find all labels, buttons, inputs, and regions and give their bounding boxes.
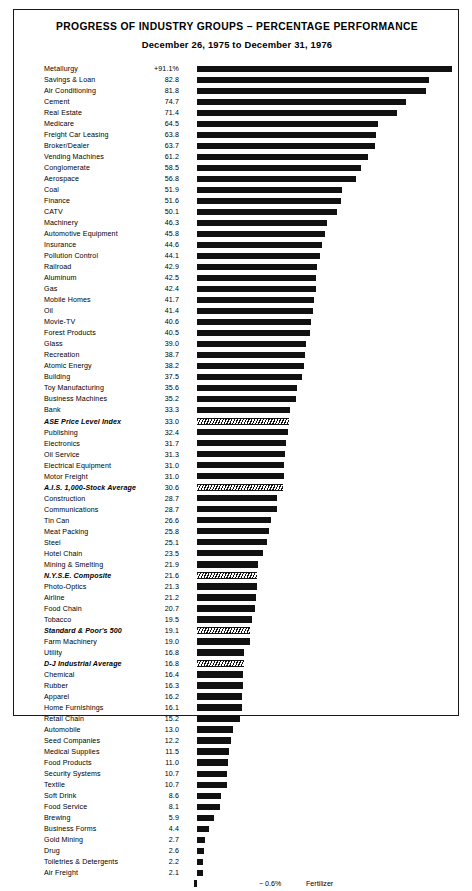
chart-row: Aerospace56.8 [14, 174, 460, 185]
row-value-label: 19.0 [124, 637, 179, 648]
row-value-label: 4.4 [124, 824, 179, 835]
row-value-label: 33.0 [124, 417, 179, 428]
row-category-label: A.I.S. 1,000-Stock Average [44, 483, 136, 494]
bar-track [197, 804, 452, 812]
row-value-label: 31.0 [124, 461, 179, 472]
row-category-label: CATV [44, 207, 63, 218]
chart-row: Insurance44.6 [14, 240, 460, 251]
row-value-label: 11.0 [124, 758, 179, 769]
chart-row: Utility16.8 [14, 648, 460, 659]
row-value-label: 21.9 [124, 560, 179, 571]
bar-track [197, 848, 452, 856]
row-category-label: Chemical [44, 670, 75, 681]
row-category-label: Rubber [44, 681, 68, 692]
bar-track [197, 660, 452, 668]
chart-row: Apparel16.2 [14, 692, 460, 703]
chart-row: Metallurgy+91.1% [14, 64, 460, 75]
row-value-label: 28.7 [124, 505, 179, 516]
category-bar [197, 583, 257, 589]
chart-row: Air Freight2.1 [14, 868, 460, 879]
chart-row: Railroad42.9 [14, 262, 460, 273]
row-value-label: 16.8 [124, 659, 179, 670]
category-bar [197, 385, 297, 391]
row-value-label: 2.6 [124, 846, 179, 857]
category-bar [197, 330, 310, 336]
bar-track [197, 771, 452, 779]
bar-track [197, 495, 452, 503]
row-category-label: Cement [44, 97, 70, 108]
bar-track [197, 286, 452, 294]
index-bar [197, 418, 289, 425]
row-category-label: Brewing [44, 813, 70, 824]
row-value-label: 10.7 [124, 780, 179, 791]
category-bar [197, 165, 361, 171]
category-bar [197, 132, 376, 138]
row-value-label: 16.3 [124, 681, 179, 692]
category-bar [197, 693, 242, 699]
row-category-label: Vending Machines [44, 152, 104, 163]
chart-row: Automotive Equipment45.8 [14, 229, 460, 240]
row-value-label: 46.3 [124, 218, 179, 229]
row-category-label: Retail Chain [44, 714, 84, 725]
row-value-label: 26.6 [124, 516, 179, 527]
row-value-label: 41.4 [124, 306, 179, 317]
category-bar [197, 804, 220, 810]
row-value-label: 35.6 [124, 383, 179, 394]
row-category-label: Broker/Dealer [44, 141, 89, 152]
category-bar [197, 264, 317, 270]
category-bar [197, 726, 233, 732]
row-category-label: Electrical Equipment [44, 461, 111, 472]
category-bar [197, 374, 302, 380]
bar-track [197, 506, 452, 514]
chart-row: Cement74.7 [14, 97, 460, 108]
chart-row: Electrical Equipment31.0 [14, 461, 460, 472]
row-value-label: 81.8 [124, 86, 179, 97]
row-value-label: 20.7 [124, 604, 179, 615]
chart-row: ASE Price Level Index33.0 [14, 417, 460, 428]
row-value-label: 8.1 [124, 802, 179, 813]
chart-row: Hotel Chain23.5 [14, 549, 460, 560]
bar-track [197, 121, 452, 129]
row-value-label: 44.1 [124, 251, 179, 262]
row-category-label: Movie-TV [44, 317, 75, 328]
bar-track [197, 473, 452, 481]
row-value-label: 28.7 [124, 494, 179, 505]
row-category-label: Air Conditioning [44, 86, 96, 97]
row-value-label: 45.8 [124, 229, 179, 240]
category-bar [197, 495, 277, 501]
category-bar [197, 737, 231, 743]
chart-row: Business Forms4.4 [14, 824, 460, 835]
category-bar [197, 550, 263, 556]
bar-track [197, 627, 452, 635]
category-bar [197, 66, 452, 72]
row-value-label: 37.5 [124, 372, 179, 383]
category-bar [197, 837, 205, 843]
row-category-label: Automobile [44, 725, 81, 736]
category-bar [197, 748, 229, 754]
category-bar [197, 815, 214, 821]
bar-track [197, 561, 452, 569]
row-category-label: Toiletries & Detergents [44, 857, 118, 868]
category-bar [197, 759, 228, 765]
category-bar [197, 451, 285, 457]
bar-track [197, 418, 452, 426]
row-value-label: 16.1 [124, 703, 179, 714]
bar-track [197, 187, 452, 195]
bar-track [197, 715, 452, 723]
row-value-label: 2.2 [124, 857, 179, 868]
row-category-label: Standard & Poor's 500 [44, 626, 122, 637]
row-value-label: 2.1 [124, 868, 179, 879]
bar-track [197, 110, 452, 118]
bar-track [197, 815, 452, 823]
bar-track [197, 826, 452, 834]
chart-row: A.I.S. 1,000-Stock Average30.6 [14, 483, 460, 494]
chart-row: Conglomerate58.5 [14, 163, 460, 174]
category-bar [197, 352, 305, 358]
row-category-label: Photo-Optics [44, 582, 86, 593]
chart-row: Soft Drink8.6 [14, 791, 460, 802]
row-category-label: Electronics [44, 439, 80, 450]
row-value-label: 21.2 [124, 593, 179, 604]
row-value-label: 16.8 [124, 648, 179, 659]
row-category-label: Conglomerate [44, 163, 90, 174]
category-bar [197, 253, 320, 259]
